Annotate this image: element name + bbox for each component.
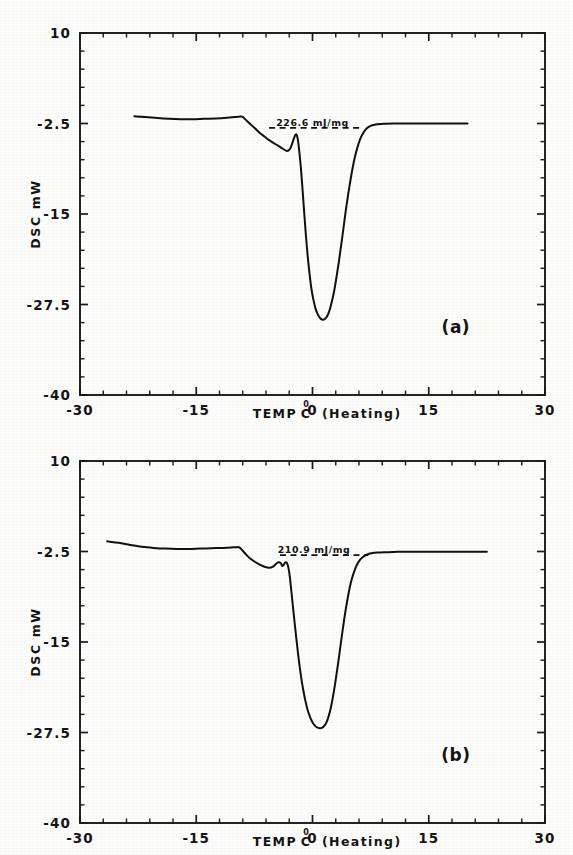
y-ticklabel: -40 bbox=[43, 815, 71, 831]
plot-frame-a bbox=[80, 33, 545, 395]
x-ticklabel: 15 bbox=[418, 830, 439, 846]
x-axis-title-b: TEMP 0 C (Heating) bbox=[253, 828, 402, 849]
dsc-curve-a bbox=[134, 116, 467, 319]
x-ticklabel: 15 bbox=[418, 402, 439, 418]
y-minor-ticks-a bbox=[80, 51, 545, 377]
y-ticklabel: -15 bbox=[43, 206, 71, 222]
dsc-figure: 10-2.5-15-27.5-40 -30-1501530 226.6 mJ/m… bbox=[0, 0, 573, 855]
x-ticklabel: -30 bbox=[66, 830, 94, 846]
x-axis-title-suffix-b: (Heating) bbox=[322, 834, 402, 849]
x-ticklabel: -15 bbox=[182, 402, 210, 418]
x-axis-title-unit-b: C bbox=[301, 834, 312, 849]
x-ticklabel: -30 bbox=[66, 402, 94, 418]
x-axis-title-prefix-b: TEMP bbox=[253, 834, 297, 849]
y-ticklabel: -15 bbox=[43, 634, 71, 650]
x-axis-title-unit-a: C bbox=[301, 406, 312, 421]
dsc-curve-b bbox=[107, 541, 487, 728]
x-ticklabel: 30 bbox=[535, 830, 556, 846]
x-minor-ticks-b bbox=[103, 461, 522, 823]
plot-area-b: 10-2.5-15-27.5-40 -30-1501530 210.9 mJ/m… bbox=[27, 453, 556, 849]
x-ticklabel: -15 bbox=[182, 830, 210, 846]
x-minor-ticks-a bbox=[103, 33, 522, 395]
y-ticks-a bbox=[80, 33, 545, 395]
enthalpy-annotation-b: 210.9 mJ/mg bbox=[278, 544, 351, 555]
y-ticks-b bbox=[80, 461, 545, 823]
y-ticklabel: -40 bbox=[43, 387, 71, 403]
y-ticklabel: -27.5 bbox=[27, 297, 71, 313]
x-axis-title-a: TEMP 0 C (Heating) bbox=[253, 400, 402, 421]
panel-tag-b: (b) bbox=[441, 745, 470, 765]
x-axis-title-suffix-a: (Heating) bbox=[322, 406, 402, 421]
y-ticklabel: -27.5 bbox=[27, 725, 71, 741]
y-axis-title-b: DSC mW bbox=[28, 607, 43, 676]
y-ticklabel: -2.5 bbox=[37, 116, 71, 132]
y-axis-title-a: DSC mW bbox=[28, 179, 43, 248]
enthalpy-annotation-a: 226.6 mJ/mg bbox=[276, 117, 349, 128]
chart-svg-b: 10-2.5-15-27.5-40 -30-1501530 210.9 mJ/m… bbox=[0, 428, 573, 855]
y-ticklabel: -2.5 bbox=[37, 544, 71, 560]
chart-svg-a: 10-2.5-15-27.5-40 -30-1501530 226.6 mJ/m… bbox=[0, 0, 573, 427]
plot-area-a: 10-2.5-15-27.5-40 -30-1501530 226.6 mJ/m… bbox=[27, 25, 556, 421]
y-minor-ticks-b bbox=[80, 479, 545, 805]
plot-frame-b bbox=[80, 461, 545, 823]
y-ticklabel: 10 bbox=[50, 25, 71, 41]
x-ticks-a bbox=[80, 33, 545, 395]
x-ticks-b bbox=[80, 461, 545, 823]
chart-panel-b: 10-2.5-15-27.5-40 -30-1501530 210.9 mJ/m… bbox=[0, 428, 573, 855]
y-ticklabel: 10 bbox=[50, 453, 71, 469]
panel-tag-a: (a) bbox=[442, 317, 471, 337]
x-axis-title-prefix-a: TEMP bbox=[253, 406, 297, 421]
chart-panel-a: 10-2.5-15-27.5-40 -30-1501530 226.6 mJ/m… bbox=[0, 0, 573, 427]
x-ticklabel: 30 bbox=[535, 402, 556, 418]
